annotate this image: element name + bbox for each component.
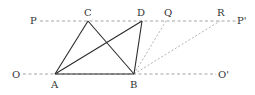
label-c: C [84,7,92,18]
geometry-diagram: P C D Q R P' O A B O' [0,0,255,95]
segment-db [134,21,142,74]
label-p: P [30,15,37,26]
segment-ad [55,21,142,74]
label-d: D [137,7,145,18]
segment-cb [88,21,134,74]
label-o-prime: O' [218,69,229,80]
label-o: O [12,69,20,80]
label-r: R [217,7,225,18]
segment-ac [55,21,88,74]
label-a: A [50,79,59,90]
segment-br [134,21,220,74]
label-q: Q [164,7,172,18]
segment-bq [134,21,166,74]
label-p-prime: P' [237,15,246,26]
label-b: B [130,79,137,90]
